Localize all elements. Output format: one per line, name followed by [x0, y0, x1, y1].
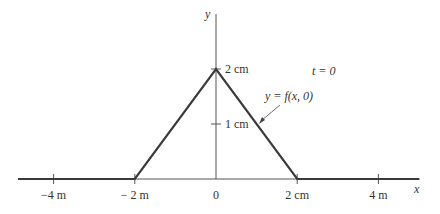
x-tick-label: 4 m: [369, 188, 388, 202]
curve-label: y = f(x, 0): [264, 89, 313, 103]
x-axis-label: x: [413, 182, 420, 196]
x-tick-label: −4 m: [41, 188, 67, 202]
x-tick-label: 0: [213, 188, 219, 202]
x-tick-label: − 2 m: [121, 188, 150, 202]
y-tick-label: 2 cm: [225, 62, 249, 76]
wave-pulse-diagram: x y −4 m− 2 m02 cm4 m 1 cm2 cm y = f(x, …: [0, 0, 440, 214]
time-label: t = 0: [312, 64, 335, 78]
x-tick-label: 2 cm: [285, 188, 309, 202]
y-ticks: 1 cm2 cm: [211, 62, 249, 131]
y-axis-label: y: [204, 7, 211, 21]
curve-label-leader: [261, 105, 280, 121]
y-tick-label: 1 cm: [225, 117, 249, 131]
